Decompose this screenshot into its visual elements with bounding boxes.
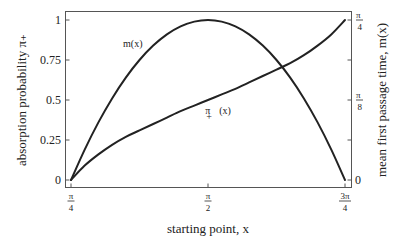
y-tick-label: 1 [55, 13, 61, 27]
y-axis-label: absorption probability π₊ [14, 34, 29, 166]
svg-text:3π: 3π [340, 191, 350, 201]
y-tick-label: 0.25 [40, 133, 61, 147]
svg-text:8: 8 [358, 102, 363, 112]
m-label: m(x) [123, 38, 142, 50]
svg-text:4: 4 [358, 22, 363, 32]
x-axis-label: starting point, x [167, 221, 249, 236]
svg-text:+: + [206, 111, 212, 122]
y2-tick-label: π8 [356, 90, 363, 112]
svg-text:π: π [356, 90, 361, 100]
svg-text:π: π [356, 10, 361, 20]
curve-annotations: m(x)π+(x) [123, 38, 231, 122]
x-tick-label: π4 [68, 191, 75, 213]
y-tick-label: 0 [55, 173, 61, 187]
pi-plus-label: π+(x) [205, 105, 231, 122]
x-tick-label: 3π4 [339, 191, 351, 213]
y-tick-label: 0.5 [46, 93, 61, 107]
y2-tick-label: 0 [355, 173, 361, 187]
svg-text:π: π [206, 191, 211, 201]
svg-text:4: 4 [69, 203, 74, 213]
svg-text:4: 4 [343, 203, 348, 213]
y-tick-label: 0.75 [40, 53, 61, 67]
chart: 00.250.50.751 0π8π4 π4π23π4 m(x)π+(x) st… [0, 0, 402, 245]
y2-tick-label: π4 [356, 10, 363, 32]
svg-text:π: π [69, 191, 74, 201]
y2-axis-label: mean first passage time, m(x) [374, 23, 389, 177]
svg-text:2: 2 [206, 203, 211, 213]
right-y-axis: 0π8π4 [348, 10, 364, 187]
x-tick-label: π2 [205, 191, 212, 213]
svg-text:(x): (x) [219, 105, 231, 117]
plot-curves [71, 20, 345, 180]
